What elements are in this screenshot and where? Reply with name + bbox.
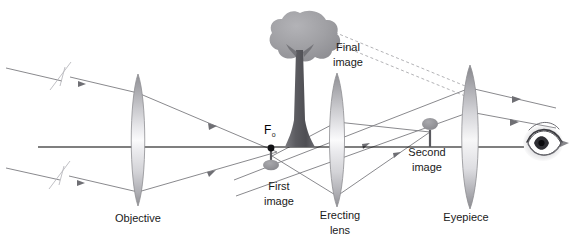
- focal-point-dot: [268, 145, 275, 152]
- ray-erecting-to-second-upper: [337, 122, 430, 132]
- break-mark-upper-tail: [60, 67, 65, 86]
- eye-pupil: [538, 140, 544, 146]
- lens-objective: [131, 74, 145, 206]
- ray-arrow-lower-incoming: [77, 180, 85, 186]
- erecting-lens-label-line1: Erecting: [320, 209, 360, 221]
- incoming-ray-lower-segment-a: [6, 168, 60, 180]
- lens-eyepiece: [462, 65, 479, 209]
- final-image-trunk: [285, 50, 315, 147]
- erecting-lens-label-line2: lens: [330, 224, 351, 236]
- eyepiece-label: Eyepiece: [443, 211, 488, 223]
- refracted-ray-upper-to-first-image: [138, 93, 277, 152]
- incoming-ray-upper-segment-a: [6, 68, 62, 81]
- objective-label: Objective: [115, 212, 161, 224]
- erecting-lens-body: [330, 73, 345, 207]
- ray-arrow-upper-incoming: [78, 81, 86, 87]
- ray-arrow-upper-refracted: [208, 123, 217, 130]
- focal-point-label: Fo: [264, 123, 276, 138]
- second-image-label-line1: Second: [408, 146, 445, 158]
- first-image-canopy: [263, 160, 279, 170]
- eyepiece-lens-body: [462, 65, 479, 209]
- final-image-label-line2: image: [333, 56, 363, 68]
- ray-arrow-erecting-out-lower: [393, 152, 401, 158]
- ray-arrow-lower-refracted: [207, 170, 216, 177]
- first-image-label-line1: First: [268, 180, 289, 192]
- optics-diagram-figure: Fo Objective Erecting lens Eyepiece Firs…: [0, 0, 570, 243]
- tree-second-image: [422, 118, 438, 147]
- ray-arrow-exit-upper: [512, 96, 521, 103]
- second-image-label-line2: image: [412, 161, 442, 173]
- ray-diagram-canvas: Fo Objective Erecting lens Eyepiece Firs…: [0, 0, 570, 243]
- eye-lash-outer: [560, 140, 569, 147]
- tree-first-image: [263, 145, 279, 171]
- observer-eye: [523, 122, 569, 161]
- final-image-label-line1: Final: [336, 41, 360, 53]
- first-image-label-line2: image: [264, 195, 294, 207]
- second-image-canopy: [422, 118, 438, 130]
- lens-erecting: [330, 73, 345, 207]
- break-mark-lower-tail: [59, 166, 64, 185]
- objective-lens-body: [131, 74, 145, 206]
